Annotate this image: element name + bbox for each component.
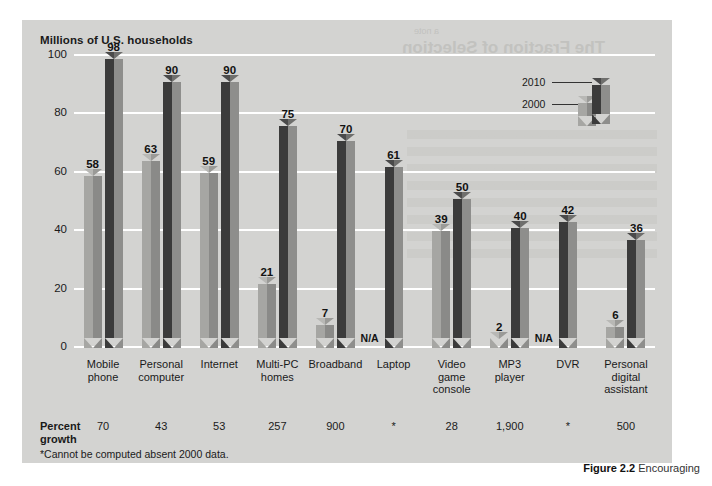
bar-foot-right: [325, 338, 334, 348]
percent-growth-value-5: *: [365, 420, 423, 432]
bar-top-cap-right: [172, 75, 181, 82]
bar-top-cap-left: [606, 320, 615, 327]
bar-face-side: [441, 231, 450, 338]
category-label-line: Multi-PC: [248, 358, 306, 371]
bar-top-cap-right: [267, 277, 276, 284]
bar-face-front: [84, 176, 93, 338]
bar-face-side: [288, 126, 297, 338]
category-label-1: Personalcomputer: [132, 358, 190, 383]
figure-panel: a note The Fraction of Selection Million…: [22, 20, 672, 463]
bar-value-label-2000: 6: [612, 309, 618, 321]
category-label-line: assistant: [597, 383, 655, 396]
bar-face-side: [568, 222, 577, 338]
bar-top-cap-right: [441, 224, 450, 231]
bar-foot-left: [316, 338, 325, 348]
bar-foot-right: [601, 114, 610, 124]
bar-face-front: [163, 82, 172, 338]
bar-face-front: [258, 284, 267, 338]
bar-face-side: [267, 284, 276, 338]
bar-face-side: [394, 167, 403, 338]
bar-foot-right: [230, 338, 239, 348]
category-axis-labels: MobilephonePersonalcomputerInternetMulti…: [74, 358, 655, 414]
bar-2010: [559, 215, 577, 348]
category-label-line: console: [423, 383, 481, 396]
y-axis-tick-0: 0: [61, 340, 67, 352]
category-label-8: DVR: [539, 358, 597, 371]
bar-2010: [385, 160, 403, 348]
bar-top-cap-left: [511, 221, 520, 228]
bar-foot-left: [221, 338, 230, 348]
bar-top-cap-left: [316, 318, 325, 325]
bar-value-label-2010: 98: [107, 41, 120, 53]
percent-growth-value-9: 500: [597, 420, 655, 432]
percent-growth-value-3: 257: [248, 420, 306, 432]
bar-2000: [606, 320, 624, 348]
bar-value-label-2000: 63: [144, 143, 157, 155]
bar-value-label-2010: 90: [165, 64, 178, 76]
bar-value-label-2010: 75: [281, 108, 294, 120]
bar-face-front: [606, 327, 615, 338]
category-label-3: Multi-PChomes: [248, 358, 306, 383]
bar-face-side: [172, 82, 181, 338]
bar-face-side: [520, 228, 529, 338]
bar-foot-left: [84, 338, 93, 348]
bar-foot-right: [151, 338, 160, 348]
bar-group: 770: [306, 56, 364, 348]
bar-top-cap-right: [462, 192, 471, 199]
bar-value-label-2010: 36: [630, 222, 643, 234]
bar-value-label-2000: 7: [322, 307, 328, 319]
bar-group: 5898: [74, 56, 132, 348]
category-label-6: Video gameconsole: [423, 358, 481, 396]
bar-face-side: [114, 59, 123, 338]
category-label-7: MP3player: [481, 358, 539, 383]
percent-growth-value-8: *: [539, 420, 597, 432]
y-axis-tick-60: 60: [54, 165, 67, 177]
bar-face-front: [592, 85, 601, 114]
bar-top-cap-right: [230, 75, 239, 82]
percent-growth-value-6: 28: [423, 420, 481, 432]
category-label-9: Personaldigitalassistant: [597, 358, 655, 396]
bar-2000: [316, 318, 334, 348]
category-label-line: digital: [597, 371, 655, 384]
bar-top-cap-right: [520, 221, 529, 228]
bar-foot-right: [93, 338, 102, 348]
category-label-line: Personal: [597, 358, 655, 371]
category-label-line: Broadband: [306, 358, 364, 371]
bar-value-label-2010: 40: [514, 210, 527, 222]
bar-top-cap-left: [221, 75, 230, 82]
bar-2010: [279, 119, 297, 348]
bar-top-cap-left: [142, 154, 151, 161]
bar-top-cap-left: [453, 192, 462, 199]
bar-value-label-2010: 61: [387, 149, 400, 161]
bar-foot-left: [258, 338, 267, 348]
bar-value-label-2000: 2: [496, 321, 502, 333]
legend-leader-2000: [552, 104, 578, 105]
category-label-0: Mobilephone: [74, 358, 132, 383]
bar-foot-left: [606, 338, 615, 348]
bar-face-front: [221, 82, 230, 338]
bar-foot-right: [441, 338, 450, 348]
bar-foot-right: [615, 338, 624, 348]
bar-foot-left: [105, 338, 114, 348]
bar-top-cap-right: [93, 169, 102, 176]
bar-foot-left: [163, 338, 172, 348]
category-label-line: homes: [248, 371, 306, 384]
percent-growth-value-4: 900: [306, 420, 364, 432]
bar-face-front: [142, 161, 151, 338]
legend-label-2010: 2010: [522, 76, 545, 88]
category-label-line: Video game: [423, 358, 481, 383]
bar-value-label-2010: 50: [456, 181, 469, 193]
bar-top-cap-left: [105, 52, 114, 59]
bar-face-side: [346, 141, 355, 338]
bar-foot-left: [559, 338, 568, 348]
bar-top-cap-right: [615, 320, 624, 327]
bar-face-front: [627, 240, 636, 338]
legend: 20102000: [522, 70, 662, 130]
percent-growth-value-1: 43: [132, 420, 190, 432]
bar-value-label-2000: 39: [435, 213, 448, 225]
category-label-line: Personal: [132, 358, 190, 371]
bar-top-cap-left: [337, 134, 346, 141]
bar-face-front: [200, 173, 209, 338]
bar-foot-right: [462, 338, 471, 348]
bar-2000: [432, 224, 450, 348]
